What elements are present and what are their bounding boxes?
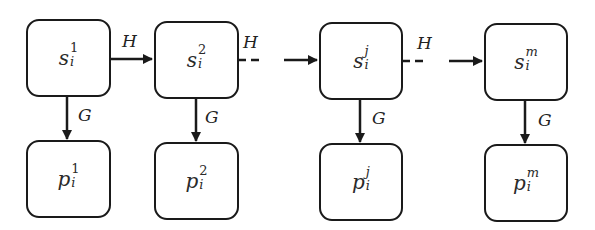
edge-label-h-3: H	[417, 33, 432, 53]
node-subscript: i	[527, 180, 539, 193]
output-node-j: p ji	[319, 143, 403, 221]
state-node-label: s ji	[353, 51, 368, 71]
node-subscript: i	[71, 176, 79, 189]
state-node-j: s ji	[319, 22, 403, 100]
node-subscript: i	[366, 179, 370, 192]
state-chain-diagram: H H H G G G G s 1i s 2i s ji s mi p 1i	[0, 0, 595, 230]
node-superscript: 1	[71, 162, 79, 175]
edge-label-g-1: G	[78, 105, 92, 125]
node-base: s	[187, 50, 197, 70]
node-superscript: m	[525, 45, 537, 58]
node-superscript: 2	[199, 164, 207, 177]
node-base: p	[185, 171, 198, 191]
output-node-label: p mi	[513, 173, 539, 193]
edge-label-h-1: H	[122, 31, 137, 51]
state-node-2: s 2i	[154, 21, 239, 99]
edge-label-g-3: G	[372, 108, 386, 128]
output-node-label: p ji	[352, 172, 370, 192]
state-node-m: s mi	[484, 23, 568, 101]
node-base: p	[352, 172, 365, 192]
output-node-label: p 1i	[57, 169, 79, 189]
node-superscript: j	[366, 165, 370, 178]
output-node-2: p 2i	[154, 142, 239, 220]
output-node-label: p 2i	[185, 171, 207, 191]
edge-label-g-4: G	[538, 110, 552, 130]
node-superscript: 1	[70, 41, 78, 54]
edge-label-g-2: G	[205, 107, 219, 127]
node-base: p	[57, 169, 70, 189]
output-node-m: p mi	[484, 144, 568, 222]
node-superscript: 2	[198, 43, 206, 56]
state-node-label: s 1i	[59, 48, 79, 68]
node-subscript: i	[525, 59, 537, 72]
node-subscript: i	[70, 55, 78, 68]
node-subscript: i	[199, 178, 207, 191]
node-subscript: i	[198, 57, 206, 70]
state-node-label: s mi	[514, 52, 538, 72]
state-node-1: s 1i	[26, 19, 111, 97]
node-base: s	[353, 51, 363, 71]
node-superscript: j	[365, 44, 369, 57]
output-node-1: p 1i	[26, 140, 111, 218]
node-base: p	[513, 173, 526, 193]
node-base: s	[59, 48, 69, 68]
node-base: s	[514, 52, 524, 72]
node-superscript: m	[527, 166, 539, 179]
node-subscript: i	[365, 58, 369, 71]
edge-label-h-2: H	[243, 32, 258, 52]
state-node-label: s 2i	[187, 50, 207, 70]
